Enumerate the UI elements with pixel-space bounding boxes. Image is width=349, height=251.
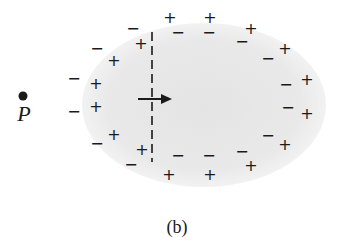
negative-charge: − [279,77,292,93]
negative-charge: − [261,128,274,144]
negative-charge: − [90,136,103,152]
negative-charge: − [124,157,137,173]
negative-charge: − [67,71,80,87]
negative-charge: − [261,51,274,67]
figure-caption: (b) [167,217,188,238]
positive-charge: + [244,158,257,174]
positive-charge: + [162,167,175,183]
negative-charge: − [202,25,215,41]
positive-charge: + [107,53,120,69]
positive-charge: + [300,72,313,88]
negative-charge: − [67,104,80,120]
negative-charge: − [171,148,184,164]
negative-charge: − [202,148,215,164]
point-p-dot [19,92,28,101]
positive-charge: + [89,76,102,92]
positive-charge: + [278,137,291,153]
positive-charge: + [278,41,291,57]
positive-charge: + [134,36,147,52]
point-p-label: P [17,101,30,127]
positive-charge: + [89,99,102,115]
negative-charge: − [171,25,184,41]
negative-charge: − [90,41,103,57]
positive-charge: + [244,21,257,37]
negative-charge: − [281,100,294,116]
positive-charge: + [203,167,216,183]
positive-charge: + [107,127,120,143]
polarized-dielectric-figure: −++−−+−+−+−+−+−+−+−+−+−+−+−+−+−+ P (b) [0,0,349,251]
positive-charge: + [135,142,148,158]
positive-charge: + [300,106,313,122]
